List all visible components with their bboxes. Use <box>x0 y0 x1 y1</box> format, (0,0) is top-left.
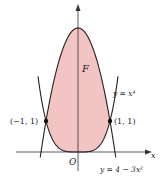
point-left-label: (−1, 1) <box>10 117 38 126</box>
point-right <box>108 119 112 123</box>
point-right-label: (1, 1) <box>114 117 136 126</box>
curve-lower-label: y = x⁴ <box>112 89 136 98</box>
diagram: F O x (−1, 1) (1, 1) y = x⁴ y = 4 − 3x² <box>0 0 160 179</box>
region-label: F <box>81 63 90 74</box>
point-left <box>44 119 48 123</box>
origin-label: O <box>69 157 77 167</box>
y-axis-arrow-icon <box>76 4 81 11</box>
curve-upper-label: y = 4 − 3x² <box>99 165 143 174</box>
x-axis-label: x <box>151 151 156 160</box>
